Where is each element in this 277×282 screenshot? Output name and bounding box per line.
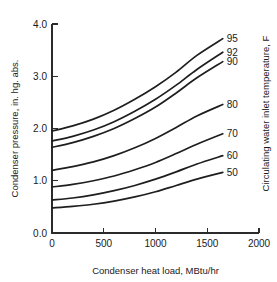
- x-axis-title: Condenser heat load, MBtu/hr: [92, 265, 219, 276]
- x-tick-label-1500: 1500: [196, 238, 219, 249]
- condenser-performance-chart: 0.01.02.03.04.00500100015002000959290807…: [0, 0, 277, 282]
- y-tick-label-1.0: 1.0: [33, 175, 47, 186]
- curve-label-90: 90: [227, 56, 239, 67]
- curve-80: [52, 104, 223, 170]
- curve-label-70: 70: [227, 128, 239, 139]
- curve-60: [52, 156, 223, 200]
- x-tick-label-2000: 2000: [248, 238, 271, 249]
- chart-container: 0.01.02.03.04.00500100015002000959290807…: [0, 0, 277, 282]
- curve-92: [52, 52, 223, 141]
- x-tick-label-500: 500: [95, 238, 112, 249]
- curve-label-50: 50: [227, 167, 239, 178]
- y-tick-label-4.0: 4.0: [33, 19, 47, 30]
- y-tick-label-0.0: 0.0: [33, 228, 47, 239]
- y-tick-label-2.0: 2.0: [33, 123, 47, 134]
- curve-label-95: 95: [227, 33, 239, 44]
- curve-label-60: 60: [227, 150, 239, 161]
- y-tick-label-3.0: 3.0: [33, 71, 47, 82]
- x-tick-label-0: 0: [49, 238, 55, 249]
- curve-50: [52, 172, 223, 208]
- curve-label-80: 80: [227, 99, 239, 110]
- y-axis-title: Condenser pressure, in. hg. abs.: [9, 60, 20, 198]
- y2-axis-title: Circulating water inlet temperature, F: [260, 35, 271, 191]
- x-tick-label-1000: 1000: [144, 238, 167, 249]
